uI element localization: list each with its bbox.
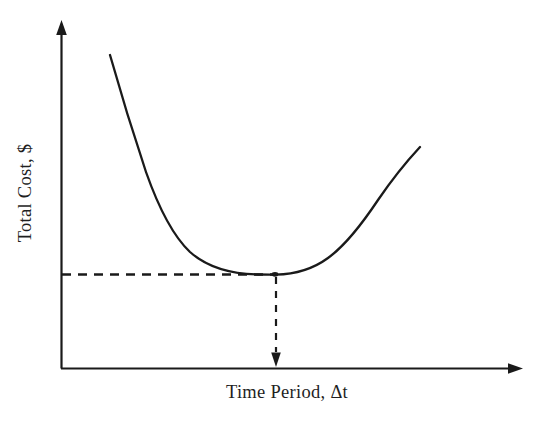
chart-background <box>0 0 545 421</box>
x-axis-label: Time Period, Δt <box>226 382 349 402</box>
chart-figure: Time Period, Δt Total Cost, $ <box>0 0 545 421</box>
total-cost-vs-time-period-chart: Time Period, Δt Total Cost, $ <box>0 0 545 421</box>
y-axis-label: Total Cost, $ <box>15 144 35 243</box>
